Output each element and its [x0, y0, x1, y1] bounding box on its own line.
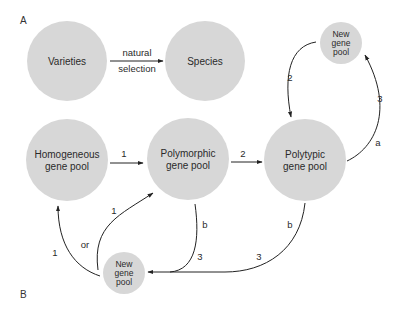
node-homogeneous-gene-pool: Homogeneous gene pool	[26, 119, 108, 201]
edge-label-1-homog-poly: 1	[121, 148, 126, 159]
node-polytypic-line2: gene pool	[283, 161, 327, 172]
edge-label-or: or	[81, 239, 89, 250]
panel-label-a: A	[20, 15, 27, 26]
edge-label-1-polymorphic: 1	[111, 205, 116, 216]
node-polytypic-gene-pool: Polytypic gene pool	[264, 119, 346, 201]
node-new-bottom-line3: pool	[116, 277, 132, 287]
arrow-polytypic-to-newbottom	[170, 203, 305, 272]
edge-label-3-newtop: 3	[377, 93, 382, 104]
node-new-top-line3: pool	[333, 47, 349, 57]
node-varieties: Varieties	[27, 21, 107, 101]
edge-label-2-poly-polytypic: 2	[240, 148, 245, 159]
edge-label-b-polytypic: b	[287, 219, 292, 230]
node-polymorphic-gene-pool: Polymorphic gene pool	[147, 118, 229, 200]
node-polymorphic-line2: gene pool	[166, 160, 210, 171]
edge-label-3-polymorphic: 3	[197, 251, 202, 262]
edge-label-b-polymorphic: b	[202, 219, 207, 230]
edge-label-2-newtop: 2	[287, 72, 292, 83]
arrow-newbottom-to-homogeneous	[58, 206, 100, 276]
node-homogeneous-line1: Homogeneous	[34, 149, 99, 160]
edge-label-a: a	[375, 137, 381, 148]
panel-label-b: B	[20, 289, 27, 300]
node-polymorphic-line1: Polymorphic	[160, 148, 215, 159]
node-species: Species	[165, 21, 245, 101]
edge-label-natural: natural	[122, 47, 151, 58]
edge-label-selection: selection	[118, 63, 156, 74]
node-new-gene-pool-top: New gene pool	[320, 22, 362, 64]
edge-label-1-homog: 1	[52, 247, 57, 258]
evolution-diagram: A B Varieties Species natural selection …	[0, 0, 403, 309]
node-homogeneous-line2: gene pool	[45, 161, 89, 172]
node-new-gene-pool-bottom: New gene pool	[103, 252, 145, 294]
arrow-polymorphic-to-newbottom	[148, 204, 197, 272]
edge-label-3-polytypic: 3	[256, 251, 261, 262]
node-polytypic-line1: Polytypic	[285, 149, 325, 160]
node-varieties-label: Varieties	[48, 56, 86, 67]
node-species-label: Species	[187, 56, 223, 67]
